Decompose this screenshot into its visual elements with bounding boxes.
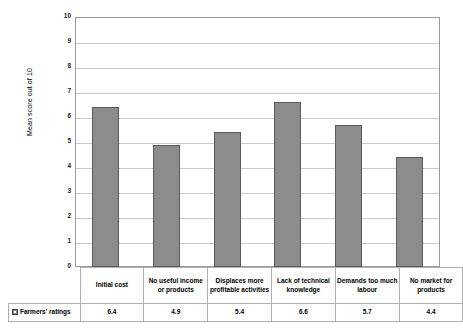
table-value-cell: 5.4 (208, 304, 272, 322)
bar (396, 157, 423, 267)
y-axis-tick: 2 (52, 213, 71, 221)
table-header-cell: Demands too much labour (335, 268, 399, 304)
table-header-row: Initial costNo useful income or products… (9, 268, 463, 304)
y-axis-tick: 4 (52, 163, 71, 171)
y-axis-title: Mean score out of 10 (26, 52, 38, 152)
y-axis-tick: 8 (52, 63, 71, 71)
y-axis-tick-label: 4 (52, 163, 71, 170)
table-header-cell: No useful income or products (144, 268, 208, 304)
legend-swatch-icon (12, 309, 18, 315)
y-axis-tick: 10 (52, 13, 71, 21)
bar (214, 132, 241, 267)
y-axis-tick: 3 (52, 188, 71, 196)
y-axis-tick-label: 6 (52, 113, 71, 120)
table-value-cell: 4.4 (399, 304, 463, 322)
y-axis-tick-label: 1 (52, 238, 71, 245)
table-value-row: Farmers' ratings 6.44.95.46.65.74.4 (9, 304, 463, 322)
table-header-cell: No market for products (399, 268, 463, 304)
legend-header-spacer (9, 268, 81, 304)
y-axis-tick-label: 3 (52, 188, 71, 195)
bars-layer (75, 17, 440, 267)
y-axis-tick: 7 (52, 88, 71, 96)
y-axis-tick-labels: 109876543210 (52, 17, 71, 267)
bar-chart: Mean score out of 10 109876543210 Initia… (0, 0, 463, 330)
table-header-cell: Lack of technical knowledge (271, 268, 335, 304)
y-axis-tick: 1 (52, 238, 71, 246)
bar (92, 107, 119, 267)
bar (274, 102, 301, 267)
table-value-cell: 4.9 (144, 304, 208, 322)
y-axis-tick: 9 (52, 38, 71, 46)
y-axis-tick-label: 10 (52, 13, 71, 20)
legend-series-text: Farmers' ratings (20, 308, 71, 315)
bar (153, 145, 180, 268)
table-value-cell: 5.7 (335, 304, 399, 322)
y-axis-tick-label: 5 (52, 138, 71, 145)
table-value-cell: 6.4 (80, 304, 144, 322)
y-axis-tick-label: 8 (52, 63, 71, 70)
y-axis-tick-label: 2 (52, 213, 71, 220)
table-value-cell: 6.6 (271, 304, 335, 322)
y-axis-tick: 6 (52, 113, 71, 121)
y-axis-tick-label: 9 (52, 38, 71, 45)
table-header-cell: Initial cost (80, 268, 144, 304)
table-header-cell: Displaces more profitable activities (208, 268, 272, 304)
y-axis-tick: 5 (52, 138, 71, 146)
y-axis-tick-label: 7 (52, 88, 71, 95)
legend-series-label: Farmers' ratings (9, 304, 81, 322)
bar (335, 125, 362, 268)
data-table: Initial costNo useful income or products… (8, 267, 463, 322)
